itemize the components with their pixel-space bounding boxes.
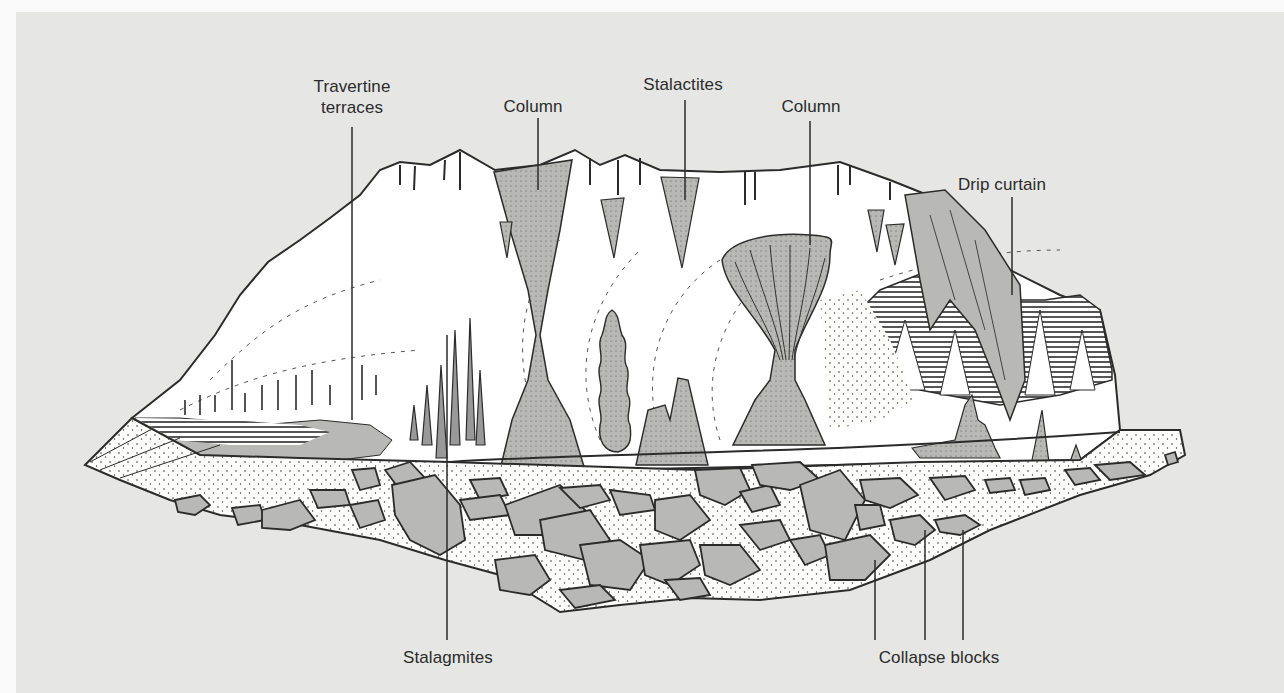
cave-diagram: Travertine terraces Column Stalactites C… — [0, 0, 1284, 693]
label-travertine-line1: Travertine — [302, 76, 402, 97]
label-travertine-terraces: Travertine terraces — [302, 76, 402, 118]
label-stalagmites: Stalagmites — [388, 647, 508, 668]
label-collapse-blocks: Collapse blocks — [864, 647, 1014, 668]
label-travertine-line2: terraces — [302, 97, 402, 118]
label-column-right: Column — [761, 96, 861, 117]
label-column-left: Column — [483, 96, 583, 117]
cave-cross-section — [0, 0, 1284, 693]
label-drip-curtain: Drip curtain — [942, 174, 1062, 195]
label-stalactites: Stalactites — [633, 74, 733, 95]
